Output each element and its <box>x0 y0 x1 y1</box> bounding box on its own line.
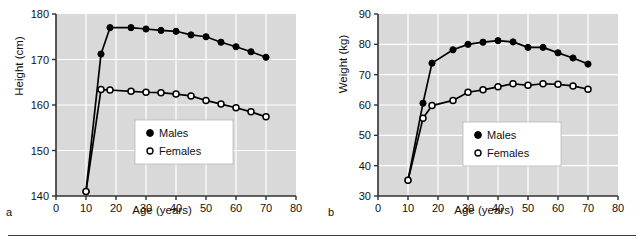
data-point-males <box>263 54 269 60</box>
data-point-males <box>510 39 516 45</box>
data-point-males <box>188 32 194 38</box>
legend-entry-males: Males <box>487 129 517 141</box>
x-axis-tick-label: 50 <box>522 202 534 214</box>
legend-marker-open-circle-icon <box>475 150 481 156</box>
x-axis-tick-label: 40 <box>492 202 504 214</box>
data-point-males <box>525 44 531 50</box>
data-point-females <box>218 101 224 107</box>
data-point-males <box>143 26 149 32</box>
x-axis-tick-label: 20 <box>432 202 444 214</box>
y-axis-tick-label: 30 <box>359 190 371 202</box>
data-point-females <box>480 87 486 93</box>
data-point-females <box>143 89 149 95</box>
data-point-males <box>128 25 134 31</box>
x-axis-tick-label: 80 <box>290 202 302 214</box>
data-point-females <box>248 109 254 115</box>
x-axis-tick-label: 30 <box>462 202 474 214</box>
data-point-females <box>158 90 164 96</box>
data-point-females <box>570 83 576 89</box>
y-axis-tick-label: 180 <box>31 8 49 20</box>
data-point-males <box>233 44 239 50</box>
data-point-males <box>450 47 456 53</box>
data-point-males <box>555 50 561 56</box>
legend-entry-males: Males <box>159 127 189 139</box>
data-point-males <box>158 27 164 33</box>
y-axis-tick-label: 160 <box>31 99 49 111</box>
data-point-females <box>263 114 269 120</box>
data-point-females <box>405 177 411 183</box>
data-point-males <box>570 55 576 61</box>
plot-area-a: 14015016017018001020304050607080MalesFem… <box>0 0 322 242</box>
data-point-females <box>495 84 501 90</box>
data-point-males <box>173 28 179 34</box>
data-point-females <box>465 89 471 95</box>
x-axis-tick-label: 50 <box>200 202 212 214</box>
figure-bottom-rule <box>8 235 636 236</box>
y-axis-tick-label: 40 <box>359 160 371 172</box>
y-axis-tick-label: 60 <box>359 99 371 111</box>
data-point-males <box>585 61 591 67</box>
y-axis-tick-label: 140 <box>31 190 49 202</box>
data-point-females <box>450 97 456 103</box>
legend-entry-females: Females <box>159 145 202 157</box>
x-axis-tick-label: 20 <box>110 202 122 214</box>
x-axis-tick-label: 80 <box>612 202 624 214</box>
data-point-females <box>525 82 531 88</box>
x-axis-tick-label: 0 <box>375 202 381 214</box>
data-point-females <box>173 91 179 97</box>
data-point-males <box>429 60 435 66</box>
x-axis-tick-label: 60 <box>230 202 242 214</box>
x-axis-tick-label: 60 <box>552 202 564 214</box>
figure-two-panel-growth-charts: Height (cm) Age (years) a 14015016017018… <box>0 0 644 242</box>
data-point-females <box>98 87 104 93</box>
data-point-males <box>420 100 426 106</box>
data-point-males <box>248 49 254 55</box>
chart-panel-a: Height (cm) Age (years) a 14015016017018… <box>0 0 322 242</box>
data-point-males <box>218 39 224 45</box>
y-axis-tick-label: 150 <box>31 145 49 157</box>
data-point-females <box>83 188 89 194</box>
data-point-females <box>128 88 134 94</box>
chart-panel-b: Weight (kg) Age (years) b 30405060708090… <box>322 0 644 242</box>
legend-marker-filled-circle-icon <box>147 130 154 137</box>
x-axis-tick-label: 10 <box>402 202 414 214</box>
legend-marker-filled-circle-icon <box>475 132 482 139</box>
x-axis-tick-label: 40 <box>170 202 182 214</box>
data-point-females <box>510 81 516 87</box>
data-point-males <box>465 41 471 47</box>
y-axis-tick-label: 90 <box>359 8 371 20</box>
data-point-females <box>233 105 239 111</box>
legend-marker-open-circle-icon <box>147 148 153 154</box>
data-point-females <box>420 115 426 121</box>
legend: MalesFemales <box>463 122 561 166</box>
y-axis-tick-label: 80 <box>359 38 371 50</box>
data-point-females <box>203 97 209 103</box>
x-axis-tick-label: 10 <box>80 202 92 214</box>
y-axis-tick-label: 50 <box>359 129 371 141</box>
data-point-females <box>107 87 113 93</box>
data-point-females <box>540 81 546 87</box>
y-axis-tick-label: 70 <box>359 69 371 81</box>
x-axis-tick-label: 30 <box>140 202 152 214</box>
legend-entry-females: Females <box>487 147 530 159</box>
x-axis-tick-label: 0 <box>53 202 59 214</box>
data-point-females <box>555 81 561 87</box>
data-point-females <box>188 93 194 99</box>
y-axis-tick-label: 170 <box>31 54 49 66</box>
data-point-females <box>429 103 435 109</box>
legend: MalesFemales <box>135 120 233 164</box>
x-axis-tick-label: 70 <box>260 202 272 214</box>
plot-area-b: 3040506070809001020304050607080MalesFema… <box>322 0 644 242</box>
data-point-males <box>203 34 209 40</box>
data-point-males <box>480 39 486 45</box>
data-point-males <box>495 38 501 44</box>
data-point-males <box>98 51 104 57</box>
data-point-males <box>540 44 546 50</box>
x-axis-tick-label: 70 <box>582 202 594 214</box>
data-point-females <box>585 86 591 92</box>
data-point-males <box>107 25 113 31</box>
